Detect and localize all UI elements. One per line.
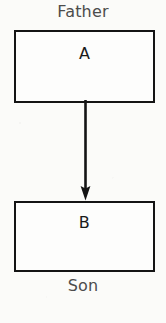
arrow-head <box>81 186 91 201</box>
block-a-label: A <box>79 46 90 62</box>
block-b[interactable]: B <box>14 201 155 272</box>
arrow-a-to-b-icon <box>74 100 98 204</box>
father-caption: Father <box>0 3 166 21</box>
diagram-canvas: Father A B Son <box>0 0 166 323</box>
block-a[interactable]: A <box>14 30 155 103</box>
block-b-label: B <box>79 215 90 231</box>
son-caption: Son <box>0 277 166 295</box>
